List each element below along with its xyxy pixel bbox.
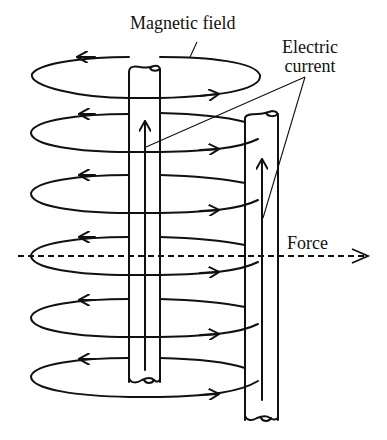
electric-current-label: Electric current bbox=[282, 38, 338, 76]
electric-current-label-line2: current bbox=[282, 57, 338, 76]
current-leader-left bbox=[146, 77, 305, 147]
magnetic-field-leader bbox=[190, 42, 197, 57]
field-loop-1 bbox=[32, 57, 260, 98]
electric-current-label-line1: Electric bbox=[282, 38, 338, 57]
current-leader-right bbox=[263, 77, 305, 218]
magnetic-force-diagram: Magnetic field Electric current Force bbox=[0, 0, 387, 440]
magnetic-field-label: Magnetic field bbox=[130, 14, 235, 33]
left-conductor bbox=[129, 66, 160, 383]
force-label: Force bbox=[287, 234, 328, 253]
